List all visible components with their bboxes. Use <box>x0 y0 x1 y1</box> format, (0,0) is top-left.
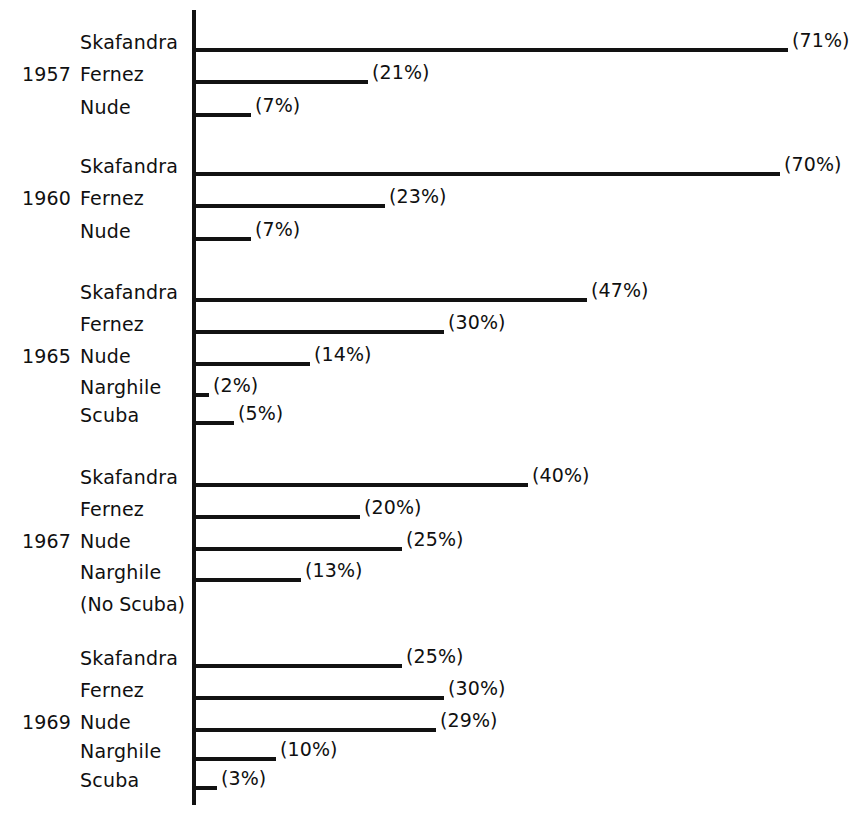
year-label: 1965 <box>22 347 71 366</box>
bar-value-label: (30%) <box>448 679 506 698</box>
bar <box>192 578 301 582</box>
bar-value-label: (7%) <box>255 96 300 115</box>
category-label: Skafandra <box>80 468 178 487</box>
bar <box>192 664 402 668</box>
bar-value-label: (14%) <box>314 345 372 364</box>
bar-value-label: (47%) <box>591 281 649 300</box>
category-label: Fernez <box>80 189 144 208</box>
bar-value-label: (21%) <box>372 63 430 82</box>
bar <box>192 48 788 52</box>
bar-value-label: (2%) <box>213 376 258 395</box>
bar <box>192 696 444 700</box>
category-label: Fernez <box>80 681 144 700</box>
bar <box>192 172 780 176</box>
category-label: Nude <box>80 532 131 551</box>
category-label: Scuba <box>80 406 139 425</box>
bar-value-label: (25%) <box>406 647 464 666</box>
bar <box>192 421 234 425</box>
bar-value-label: (23%) <box>389 187 447 206</box>
bar-value-label: (20%) <box>364 498 422 517</box>
bar-value-label: (70%) <box>784 155 842 174</box>
bar-value-label: (10%) <box>280 740 338 759</box>
year-label: 1969 <box>22 713 71 732</box>
bar <box>192 786 217 790</box>
bar <box>192 330 444 334</box>
bar-value-label: (40%) <box>532 466 590 485</box>
bar <box>192 113 251 117</box>
category-label: Fernez <box>80 65 144 84</box>
category-label: Nude <box>80 222 131 241</box>
group-note-label: (No Scuba) <box>80 595 185 614</box>
category-label: Skafandra <box>80 33 178 52</box>
horizontal-bar-chart: SkafandraFernezNudeSkafandraFernezNudeSk… <box>0 0 861 814</box>
bar-value-label: (13%) <box>305 561 363 580</box>
category-label: Skafandra <box>80 649 178 668</box>
bar <box>192 237 251 241</box>
category-label: Fernez <box>80 315 144 334</box>
year-label: 1967 <box>22 532 71 551</box>
bar <box>192 547 402 551</box>
category-label: Nude <box>80 347 131 366</box>
bar <box>192 483 528 487</box>
category-label: Nude <box>80 713 131 732</box>
category-label: Scuba <box>80 771 139 790</box>
category-label: Skafandra <box>80 157 178 176</box>
bar-value-label: (7%) <box>255 220 300 239</box>
category-label: Narghile <box>80 378 161 397</box>
bar-value-label: (29%) <box>440 711 498 730</box>
bar-value-label: (30%) <box>448 313 506 332</box>
category-label: Nude <box>80 98 131 117</box>
bar <box>192 362 310 366</box>
year-label: 1957 <box>22 65 71 84</box>
bar-value-label: (25%) <box>406 530 464 549</box>
bar-value-label: (71%) <box>792 31 850 50</box>
bar-value-label: (5%) <box>238 404 283 423</box>
bar <box>192 204 385 208</box>
category-label: Skafandra <box>80 283 178 302</box>
bar <box>192 757 276 761</box>
bar <box>192 728 436 732</box>
category-label: Narghile <box>80 742 161 761</box>
category-label: Fernez <box>80 500 144 519</box>
bar-value-label: (3%) <box>221 769 266 788</box>
bar <box>192 80 368 84</box>
bar <box>192 515 360 519</box>
bar <box>192 298 587 302</box>
category-label: Narghile <box>80 563 161 582</box>
year-label: 1960 <box>22 189 71 208</box>
category-axis-line <box>192 10 196 805</box>
bar <box>192 393 209 397</box>
